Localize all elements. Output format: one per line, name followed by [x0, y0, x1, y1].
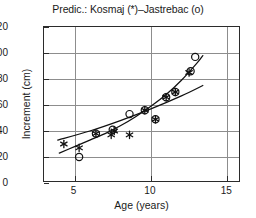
y-tick-mark [44, 183, 49, 184]
y-tick-label: 80 [0, 73, 8, 84]
chart-title: Predic.: Kosmaj (*)–Jastrebac (o) [0, 3, 256, 15]
fit-curve [59, 56, 203, 154]
x-tick-label: 10 [144, 185, 155, 196]
series-plot [44, 27, 239, 181]
data-point-kosmaj [126, 131, 132, 138]
fit-curve [58, 86, 203, 141]
x-tick-label: 5 [71, 185, 77, 196]
y-tick-label: 60 [0, 99, 8, 110]
x-axis-label: Age (years) [43, 199, 240, 211]
chart-figure: Predic.: Kosmaj (*)–Jastrebac (o) Increm… [0, 0, 256, 218]
y-tick-label: 0 [0, 177, 8, 188]
y-axis-label: Increment (cm) [20, 34, 32, 174]
plot-area [43, 26, 240, 182]
data-point-jastrebac [192, 53, 199, 60]
y-tick-label: 100 [0, 47, 8, 58]
y-tick-label: 120 [0, 21, 8, 32]
y-tick-label: 20 [0, 151, 8, 162]
data-point-jastrebac [76, 153, 83, 160]
y-tick-label: 40 [0, 125, 8, 136]
x-tick-label: 15 [221, 185, 232, 196]
data-point-kosmaj [61, 140, 67, 147]
data-layer [44, 27, 239, 181]
